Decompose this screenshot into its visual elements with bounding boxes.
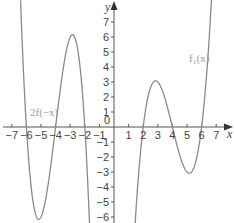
- x-axis-label: x: [226, 127, 233, 141]
- y-tick-label: −2: [96, 151, 109, 163]
- y-tick-label: 3: [103, 76, 109, 88]
- x-tick-label: −6: [20, 129, 33, 141]
- y-tick-label: 4: [103, 61, 109, 73]
- x-tick-label: 1: [126, 129, 132, 141]
- y-tick-label: −1: [96, 136, 109, 148]
- x-tick-label: 3: [155, 129, 161, 141]
- x-tick-label: −4: [49, 129, 62, 141]
- y-tick-label: 2: [103, 91, 109, 103]
- y-tick-label: 5: [103, 46, 109, 58]
- graph-figure: −7−6−5−4−3−2−112345677654321−1−2−3−4−5−6…: [0, 0, 234, 223]
- curve-f1: [133, 0, 212, 223]
- x-tick-label: −2: [79, 129, 92, 141]
- plot-area: −7−6−5−4−3−2−112345677654321−1−2−3−4−5−6…: [0, 0, 234, 223]
- x-tick-label: −7: [6, 129, 19, 141]
- curve-label-2f-neg-x: 2f(−x): [30, 106, 59, 119]
- y-tick-label: −4: [96, 181, 109, 193]
- curve-label-f1: f₁(x): [189, 52, 210, 65]
- y-tick-label: −3: [96, 166, 109, 178]
- x-tick-label: −3: [64, 129, 77, 141]
- x-tick-label: 5: [184, 129, 190, 141]
- labels: −7−6−5−4−3−2−112345677654321−1−2−3−4−5−6…: [6, 0, 233, 223]
- x-tick-label: 4: [169, 129, 175, 141]
- y-tick-label: −5: [96, 196, 109, 208]
- y-tick-label: −6: [96, 211, 109, 223]
- origin-label: 0: [104, 114, 110, 126]
- y-axis-arrow-icon: [111, 1, 118, 10]
- x-tick-label: 6: [199, 129, 205, 141]
- x-tick-label: 7: [213, 129, 219, 141]
- y-tick-label: 6: [103, 31, 109, 43]
- y-tick-label: 7: [103, 16, 109, 28]
- y-axis-label: y: [104, 0, 111, 14]
- x-tick-label: 2: [140, 129, 146, 141]
- x-tick-label: −5: [35, 129, 48, 141]
